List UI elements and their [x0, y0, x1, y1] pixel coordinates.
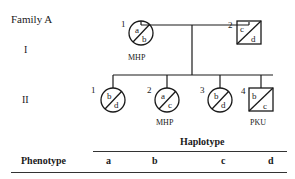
individual-number: 3 [200, 85, 205, 95]
table-group-header: Haplotype [180, 136, 224, 147]
haplotype-1: b [214, 91, 219, 101]
haplotype-1: a [135, 25, 139, 35]
pedigree-chart: a b 1 MHP c d 2 b d 1 a c 2 MHP b d 3 [0, 0, 295, 140]
haplotype-1: b [252, 91, 257, 101]
individual-II-1: b d 1 [91, 85, 125, 112]
phenotype-label: PKU [250, 118, 266, 127]
individual-II-3: b d 3 [200, 85, 232, 112]
individual-number: 4 [241, 86, 246, 96]
table-col-a: a [106, 155, 111, 166]
individual-number: 1 [91, 85, 96, 95]
haplotype-2: d [251, 34, 256, 44]
phenotype-label: MHP [156, 118, 174, 127]
table-col-d: d [268, 155, 274, 166]
haplotype-2: c [168, 100, 172, 110]
table-row-header: Phenotype [21, 155, 66, 166]
table-col-b: b [152, 155, 158, 166]
haplotype-2: b [142, 34, 147, 44]
haplotype-1: b [107, 91, 112, 101]
individual-number: 2 [147, 85, 152, 95]
table-bottom-rule [11, 172, 287, 173]
phenotype-label: MHP [128, 53, 146, 62]
haplotype-2: d [114, 100, 119, 110]
haplotype-1: a [161, 91, 165, 101]
haplotype-1: c [240, 24, 244, 34]
individual-II-4: b c 4 PKU [241, 86, 273, 127]
haplotype-2: c [263, 101, 267, 111]
haplotype-2: d [221, 100, 226, 110]
individual-number: 2 [228, 20, 233, 30]
individual-I-1: a b 1 MHP [121, 19, 153, 62]
table-col-c: c [221, 155, 225, 166]
individual-I-2: c d 2 [228, 20, 261, 44]
table-header-rule [93, 151, 287, 152]
individual-II-2: a c 2 MHP [147, 85, 179, 127]
individual-number: 1 [121, 19, 126, 29]
